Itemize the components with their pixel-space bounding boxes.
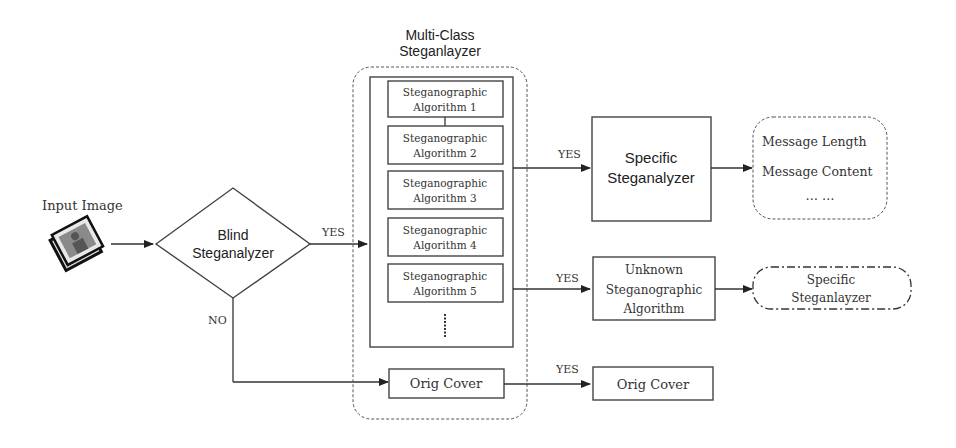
svg-text:… …: … …: [806, 188, 835, 203]
svg-text:Steganographic: Steganographic: [606, 283, 703, 297]
svg-text:Specific: Specific: [625, 149, 678, 166]
orig-cover-inner: Orig Cover: [389, 369, 504, 398]
svg-text:Algorithm 4: Algorithm 4: [412, 239, 477, 251]
photo-stack-icon: [48, 216, 105, 270]
blind-label-1: Blind: [217, 227, 248, 243]
specific-steganlayzer-box: Specific Steganlayzer: [753, 267, 911, 309]
yes-label-4: YES: [555, 363, 579, 376]
svg-text:Algorithm 3: Algorithm 3: [412, 192, 476, 204]
svg-text:Steganographic: Steganographic: [403, 132, 488, 144]
svg-text:Algorithm 2: Algorithm 2: [412, 147, 476, 159]
algorithm-box-1: Steganographic Algorithm 1: [388, 81, 503, 117]
svg-text:Message Length: Message Length: [762, 134, 867, 149]
multiclass-title-1: Multi-Class: [405, 27, 474, 43]
svg-text:Steganographic: Steganographic: [403, 224, 488, 236]
svg-text:Steganalyzer: Steganalyzer: [607, 169, 695, 186]
unknown-algorithm-box: Unknown Steganographic Algorithm: [593, 257, 715, 320]
svg-text:Steganographic: Steganographic: [403, 270, 488, 282]
svg-text:Orig Cover: Orig Cover: [617, 377, 690, 392]
no-label: NO: [208, 314, 227, 327]
svg-text:Steganlayzer: Steganlayzer: [791, 291, 871, 305]
svg-text:Unknown: Unknown: [625, 263, 683, 277]
blind-steganalyzer-diamond: [156, 188, 310, 298]
orig-cover-output-box: Orig Cover: [593, 367, 713, 400]
svg-text:Orig Cover: Orig Cover: [410, 376, 483, 391]
svg-text:Algorithm 1: Algorithm 1: [412, 101, 476, 113]
yes-label-1: YES: [321, 226, 345, 239]
svg-text:Message Content: Message Content: [762, 164, 873, 179]
multiclass-title-2: Steganlayzer: [399, 43, 481, 59]
svg-text:Algorithm: Algorithm: [623, 302, 686, 316]
svg-text:Specific: Specific: [807, 273, 856, 287]
algorithm-box-3: Steganographic Algorithm 3: [388, 171, 503, 209]
yes-label-3: YES: [555, 272, 579, 285]
svg-text:Steganographic: Steganographic: [403, 86, 488, 98]
algorithm-box-2: Steganographic Algorithm 2: [388, 126, 503, 164]
svg-text:Steganographic: Steganographic: [403, 177, 488, 189]
input-image-label: Input Image: [42, 198, 123, 213]
yes-label-2: YES: [557, 148, 581, 161]
svg-text:Algorithm 5: Algorithm 5: [412, 285, 476, 297]
blind-label-2: Steganalyzer: [192, 245, 274, 261]
message-output-box: Message Length Message Content … …: [753, 117, 887, 219]
specific-steganalyzer-box: Specific Steganalyzer: [592, 117, 711, 221]
algorithm-box-4: Steganographic Algorithm 4: [388, 218, 503, 256]
algorithm-box-5: Steganographic Algorithm 5: [388, 264, 503, 302]
